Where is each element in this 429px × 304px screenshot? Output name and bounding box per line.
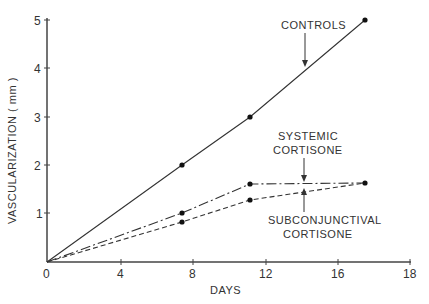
x-tick-16: 16 [331, 267, 345, 281]
y-tick-3: 3 [34, 111, 41, 125]
y-tick-4: 4 [34, 62, 41, 76]
y-tick-1: 1 [36, 207, 43, 221]
y-tick-5: 5 [34, 14, 41, 28]
annotation-systemic-line2: CORTISONE [273, 144, 343, 156]
annotation-controls: CONTROLS [281, 19, 346, 31]
line-chart: 5 4 3 2 1 0 4 8 12 16 18 DAYS VASCULARIZ… [0, 0, 429, 304]
annotation-subconj-line1: SUBCONJUNCTIVAL [268, 214, 382, 226]
x-tick-8: 8 [189, 267, 196, 281]
y-axis-label: VASCULARIZATION ( mm ) [6, 77, 18, 224]
data-markers [179, 17, 367, 224]
x-tick-12: 12 [259, 267, 273, 281]
y-tick-2: 2 [34, 159, 41, 173]
annotation-systemic-line1: SYSTEMIC [278, 130, 338, 142]
x-tick-0: 0 [43, 267, 50, 281]
x-tick-18: 18 [403, 267, 417, 281]
arrow-head-icon [301, 175, 307, 182]
x-tick-4: 4 [117, 267, 124, 281]
x-axis-label: DAYS [210, 284, 241, 296]
annotation-subconj-line2: CORTISONE [283, 228, 353, 240]
arrow-head-icon [302, 60, 308, 67]
arrow-head-icon [301, 188, 307, 195]
